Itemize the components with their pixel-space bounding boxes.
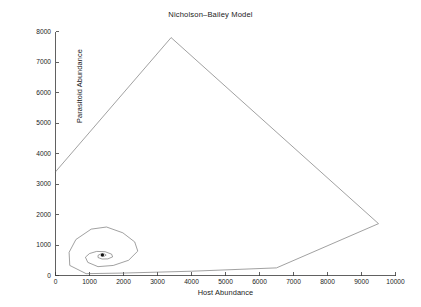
y-tick-label: 8000 [17,28,51,35]
y-tick-label: 2000 [17,211,51,218]
phase-plane-plot [0,0,421,307]
x-tick-marks [56,272,396,275]
data-layer [56,38,379,274]
fixed-point-marker [101,253,104,256]
y-tick-label: 0 [17,272,51,279]
x-tick-label: 10000 [376,278,416,285]
axes-frame [56,32,396,276]
y-tick-label: 3000 [17,180,51,187]
trajectory-path [56,38,379,274]
y-tick-label: 6000 [17,89,51,96]
x-axis-label: Host Abundance [55,288,396,297]
equilibrium-point [101,253,104,256]
y-tick-marks [56,32,59,276]
y-axis-label: Parasitoid Abundance [75,11,87,161]
figure-canvas: Nicholson–Bailey Model 01000200030004000… [0,0,421,307]
y-tick-label: 7000 [17,58,51,65]
y-tick-label: 4000 [17,150,51,157]
y-tick-label: 5000 [17,119,51,126]
y-tick-label: 1000 [17,241,51,248]
